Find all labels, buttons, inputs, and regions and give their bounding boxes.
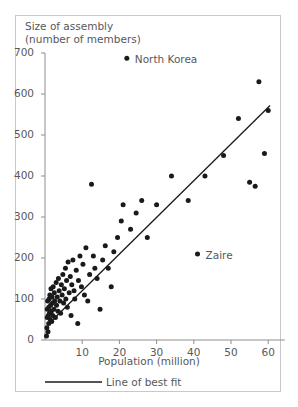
y-tick-label: 600 (0, 87, 34, 99)
y-tick-label: 300 (0, 210, 34, 222)
x-tick-label: 40 (179, 346, 209, 358)
y-tick-label: 400 (0, 169, 34, 181)
y-tick-label: 700 (0, 46, 34, 58)
x-tick-label: 60 (253, 346, 283, 358)
point-annotation: North Korea (135, 53, 197, 65)
chart-figure: Size of assembly (number of members) Pop… (0, 0, 298, 407)
y-tick-label: 200 (0, 251, 34, 263)
x-tick-label: 10 (67, 346, 97, 358)
y-tick-label: 100 (0, 292, 34, 304)
y-tick-label: 500 (0, 128, 34, 140)
legend-label: Line of best fit (106, 376, 181, 388)
x-tick-label: 20 (104, 346, 134, 358)
x-tick-label: 50 (216, 346, 246, 358)
x-tick-label: 30 (142, 346, 172, 358)
y-tick-label: 0 (0, 333, 34, 345)
point-annotation: Zaire (206, 249, 233, 261)
